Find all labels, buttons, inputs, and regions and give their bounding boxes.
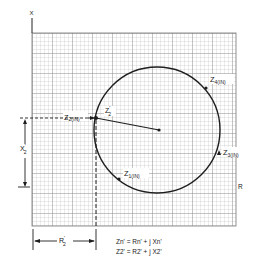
equations: Zn' = Rn' + j Xn' Z2' = R2' + j X2'	[116, 238, 162, 256]
impedance-circle-diagram: X R Z2(IN) Z'2 Z4(IN) Z3(IN) Z1(IN)	[0, 0, 273, 266]
r2-dimension: R'2	[33, 229, 96, 250]
grid-paper	[32, 33, 236, 226]
equation-z2: Z2' = R2' + j X2'	[116, 248, 162, 256]
center-point	[157, 128, 160, 131]
x2-dimension: X'2	[18, 119, 31, 187]
x-axis: X	[30, 10, 34, 33]
x-axis-label: X	[30, 10, 34, 16]
r-axis-label: R	[238, 183, 243, 190]
radius-label: Z'2	[104, 105, 116, 117]
equation-zn: Zn' = Rn' + j Xn'	[116, 238, 162, 246]
